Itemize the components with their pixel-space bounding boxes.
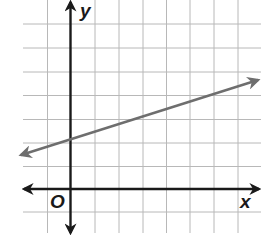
y-axis-label: y <box>79 0 92 21</box>
x-axis-label: x <box>239 191 252 212</box>
coordinate-plane: y x O <box>0 0 267 249</box>
origin-label: O <box>50 191 65 212</box>
plotted-line <box>21 80 258 155</box>
